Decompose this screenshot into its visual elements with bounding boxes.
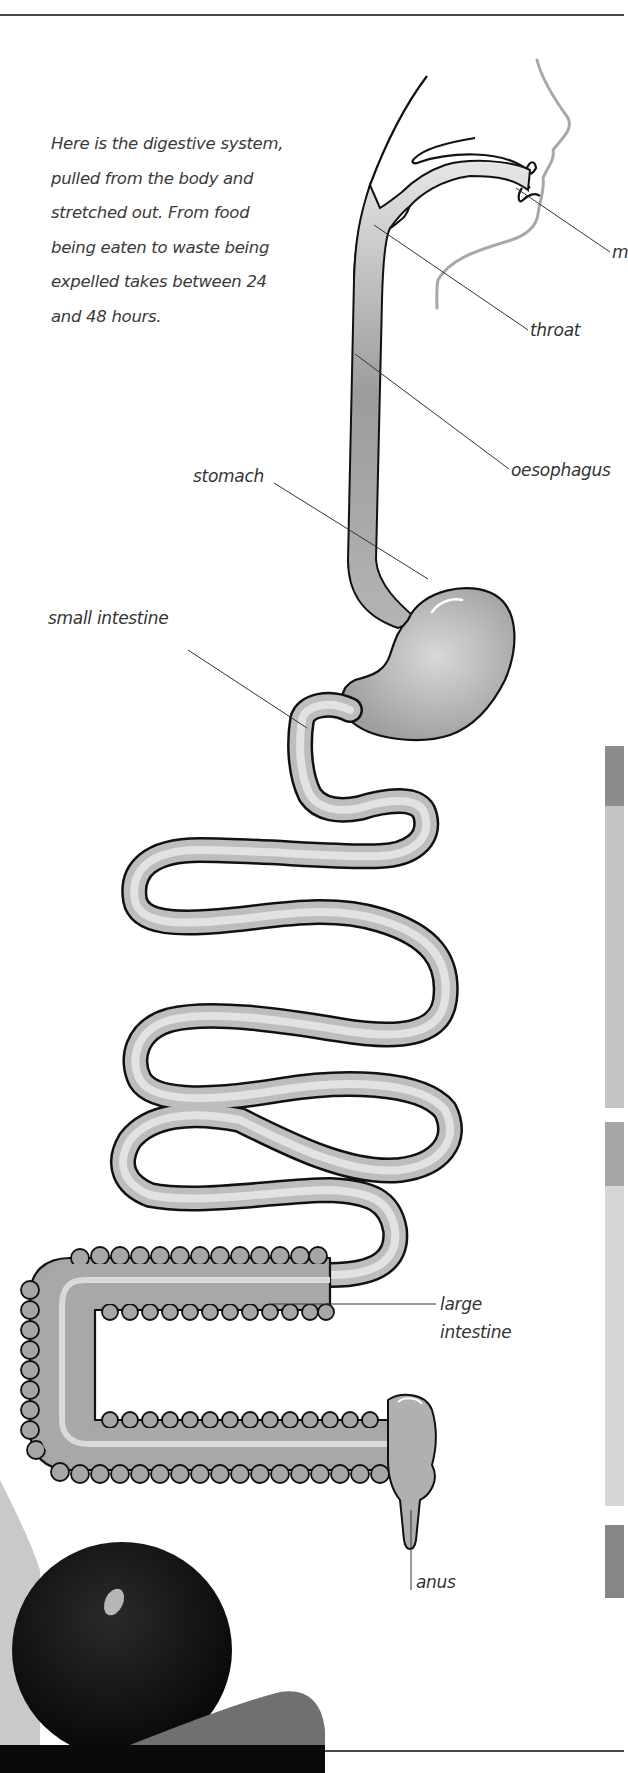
label-mouth: m xyxy=(612,242,628,262)
apple-photo xyxy=(0,1480,325,1773)
label-anus: anus xyxy=(416,1572,456,1592)
label-oesophagus: oesophagus xyxy=(511,460,611,480)
leader-lines xyxy=(188,188,610,1590)
small-intestine-leader xyxy=(188,650,307,728)
label-large-intestine-line2: intestine xyxy=(440,1318,560,1346)
label-small-intestine: small intestine xyxy=(48,608,168,628)
large-intestine-shape xyxy=(21,1247,436,1549)
label-stomach: stomach xyxy=(193,466,264,486)
label-large-intestine-line1: large xyxy=(440,1290,560,1318)
face-profile xyxy=(437,60,570,308)
label-large-intestine: large intestine xyxy=(440,1290,560,1346)
mouth-leader xyxy=(516,188,610,252)
label-throat: throat xyxy=(530,320,580,340)
small-intestine-shape xyxy=(123,705,450,1275)
oesophagus-shape xyxy=(348,161,530,628)
